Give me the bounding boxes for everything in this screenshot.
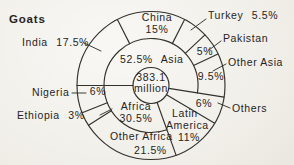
label-others-pct: 6% bbox=[194, 98, 214, 109]
label-latin-america-line1: Latin bbox=[172, 108, 198, 119]
segment-divider-nigeria bbox=[82, 103, 107, 113]
segment-divider-ethiopia bbox=[89, 111, 112, 125]
label-other-asia-pct: 9.5% bbox=[197, 71, 225, 82]
label-ethiopia: Ethiopia 3% bbox=[17, 110, 85, 121]
chart-title: Goats bbox=[9, 14, 46, 25]
goat-population-chart-figure: Goats India 17.5% China 15% Turkey 5.5% … bbox=[0, 0, 294, 165]
label-africa-pct: 30.5% bbox=[114, 113, 158, 124]
label-africa-name: Africa bbox=[114, 101, 158, 112]
label-china-pct: 15% bbox=[137, 24, 177, 35]
segment-divider-china bbox=[117, 20, 129, 44]
segment-divider-others bbox=[169, 88, 224, 97]
label-others-name: Others bbox=[232, 103, 267, 114]
label-latin-america-pct: 11% bbox=[178, 132, 200, 143]
label-china-name: China bbox=[137, 12, 177, 23]
leader-line-others bbox=[218, 103, 230, 108]
center-total-unit: million bbox=[129, 83, 173, 94]
label-latin-america-line2: America bbox=[166, 120, 209, 131]
label-pakistan-pct: 5% bbox=[194, 46, 216, 57]
label-nigeria-name: Nigeria bbox=[32, 87, 69, 98]
label-pakistan-name: Pakistan bbox=[223, 33, 268, 44]
label-india: India 17.5% bbox=[22, 37, 89, 48]
label-other-africa-pct: 21.5% bbox=[134, 145, 167, 156]
label-other-africa-name: Other Africa bbox=[110, 131, 173, 142]
label-turkey: Turkey 5.5% bbox=[208, 10, 278, 21]
label-nigeria-pct: 6% bbox=[88, 86, 108, 97]
label-other-asia-name: Other Asia bbox=[228, 57, 283, 68]
label-asia-inner: 52.5% Asia bbox=[120, 54, 184, 65]
